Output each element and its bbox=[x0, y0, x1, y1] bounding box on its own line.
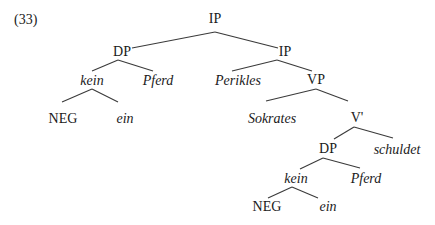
tree-edge-kein-2-to-ein-2 bbox=[292, 187, 318, 198]
tree-edge-dp-obj-to-kein-2 bbox=[300, 158, 323, 169]
tree-edge-vp-to-vbar bbox=[316, 89, 348, 101]
tree-edge-ip-inner-to-vp bbox=[277, 60, 312, 71]
tree-node-dp-subj: DP bbox=[113, 44, 131, 60]
tree-node-pferd-1: Pferd bbox=[143, 73, 174, 89]
tree-node-ein-2: ein bbox=[319, 199, 336, 215]
tree-node-dp-obj: DP bbox=[319, 141, 337, 157]
tree-edge-vbar-to-schuldet bbox=[354, 127, 393, 138]
tree-node-vp: VP bbox=[307, 72, 325, 88]
tree-node-neg-1: NEG bbox=[49, 111, 78, 127]
tree-edge-dp-subj-to-kein-1 bbox=[92, 60, 118, 71]
tree-edge-ip-root-to-dp-subj bbox=[132, 32, 215, 48]
tree-node-schuldet: schuldet bbox=[374, 142, 421, 158]
tree-edge-dp-obj-to-pferd-2 bbox=[323, 158, 360, 168]
tree-node-ein-1: ein bbox=[116, 111, 133, 127]
tree-node-vbar: V' bbox=[351, 110, 364, 126]
tree-node-perikles: Perikles bbox=[215, 73, 261, 89]
tree-edge-vp-to-sokrates bbox=[266, 89, 316, 101]
tree-node-ip-root: IP bbox=[209, 11, 221, 27]
tree-edge-ip-root-to-ip-inner bbox=[215, 32, 278, 48]
tree-edge-ip-inner-to-perikles bbox=[232, 60, 277, 71]
tree-node-pferd-2: Pferd bbox=[351, 171, 382, 187]
tree-node-ip-inner: IP bbox=[279, 44, 291, 60]
tree-edge-dp-subj-to-pferd-1 bbox=[118, 60, 153, 71]
tree-edge-kein-2-to-neg-2 bbox=[268, 187, 292, 198]
tree-edge-vbar-to-dp-obj bbox=[334, 127, 354, 139]
tree-node-sokrates: Sokrates bbox=[248, 111, 296, 127]
tree-edge-kein-1-to-ein-1 bbox=[92, 89, 118, 102]
tree-node-neg-2: NEG bbox=[253, 199, 282, 215]
tree-node-kein-1: kein bbox=[80, 73, 103, 89]
tree-node-kein-2: kein bbox=[284, 171, 307, 187]
tree-edge-kein-1-to-neg-1 bbox=[62, 89, 92, 102]
